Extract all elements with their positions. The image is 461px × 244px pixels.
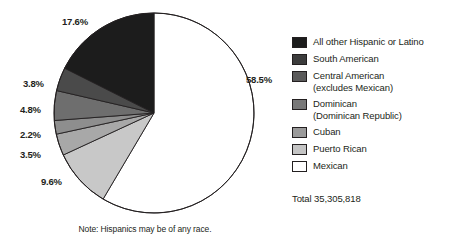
total-label: Total 35,305,818 (292, 193, 361, 204)
legend-label: Dominican(Dominican Republic) (313, 98, 402, 121)
legend-label: South American (313, 53, 379, 65)
legend-item[interactable]: Central American(excludes Mexican) (292, 70, 461, 93)
legend-label: All other Hispanic or Latino (313, 36, 424, 48)
pie-chart-area: 58.5% 9.6% 3.5% 2.2% 4.8% 3.8% 17.6% (0, 0, 280, 226)
legend-item[interactable]: All other Hispanic or Latino (292, 36, 461, 48)
legend-swatch (292, 37, 307, 48)
legend-swatch (292, 54, 307, 65)
legend-item[interactable]: Cuban (292, 126, 461, 138)
slice-percent-cuban: 3.5% (20, 149, 41, 160)
slice-percent-mexican: 58.5% (246, 74, 272, 85)
slice-percent-puerto-rican: 9.6% (41, 176, 62, 187)
legend-swatch (292, 99, 307, 110)
legend-swatch (292, 71, 307, 82)
legend-swatch (292, 144, 307, 155)
legend-swatch (292, 161, 307, 172)
legend-label: Mexican (313, 160, 348, 172)
slice-percent-all-other: 17.6% (62, 16, 88, 27)
legend-item[interactable]: Dominican(Dominican Republic) (292, 98, 461, 121)
legend-item[interactable]: South American (292, 53, 461, 65)
legend-label-line2: (excludes Mexican) (313, 82, 393, 94)
pie-slice-group (54, 13, 254, 213)
legend-label: Puerto Rican (313, 143, 367, 155)
chart-legend: All other Hispanic or LatinoSouth Americ… (292, 36, 461, 177)
legend-item[interactable]: Puerto Rican (292, 143, 461, 155)
slice-percent-central-american: 4.8% (20, 104, 41, 115)
slice-percent-south-american: 3.8% (23, 78, 44, 89)
slice-percent-dominican: 2.2% (20, 129, 41, 140)
legend-swatch (292, 127, 307, 138)
legend-label: Cuban (313, 126, 341, 138)
legend-item[interactable]: Mexican (292, 160, 461, 172)
legend-label-line2: (Dominican Republic) (313, 110, 402, 122)
legend-label: Central American(excludes Mexican) (313, 70, 393, 93)
pie-chart-figure: 58.5% 9.6% 3.5% 2.2% 4.8% 3.8% 17.6% All… (0, 0, 461, 244)
pie-svg (0, 0, 280, 226)
chart-note: Note: Hispanics may be of any race. (0, 224, 290, 234)
